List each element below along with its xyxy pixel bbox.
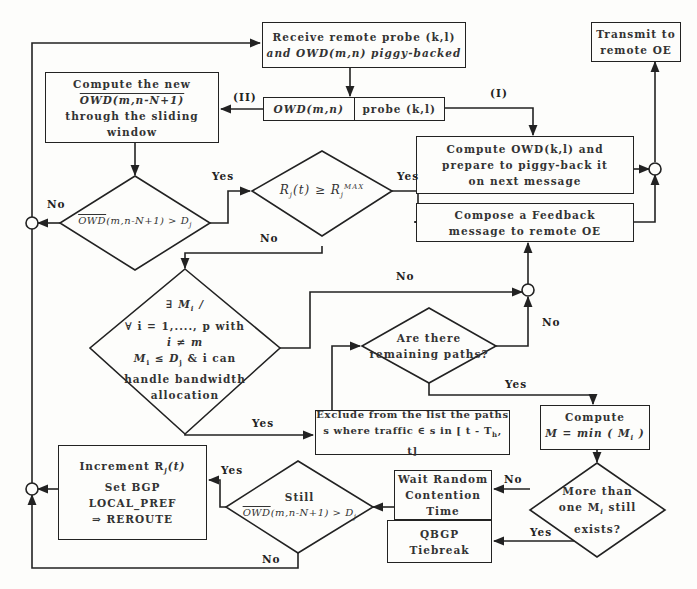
- receive-probe-box: Receive remote probe (k,l) and OWD(m,n) …: [262, 22, 466, 68]
- decision-remaining-paths: Are there remaining paths?: [362, 328, 496, 364]
- compute-new-line3: through the sliding window: [46, 108, 218, 140]
- still-line2: OWD(m,n-N+1) > Dj: [243, 505, 357, 525]
- label-no-more: No: [504, 473, 523, 485]
- compute-min-box: Compute M = min ( Mi ): [540, 405, 650, 450]
- more-line2b: still: [604, 501, 636, 513]
- remaining-line2: remaining paths?: [369, 346, 488, 362]
- label-no-d3: No: [396, 270, 415, 282]
- label-yes-d3: Yes: [252, 417, 274, 429]
- label-yes-d2: Yes: [397, 170, 419, 182]
- exists-line1-text: ∃ M: [166, 298, 191, 310]
- label-branch-II: (II): [233, 91, 257, 103]
- wait-line1: Wait Random: [398, 471, 488, 487]
- exists-line4c: & i can: [183, 352, 236, 364]
- label-yes-d1: Yes: [212, 170, 234, 182]
- owd-gt-d-text: OWD(m,n-N+1) > Dj: [78, 213, 192, 233]
- label-yes-more: Yes: [530, 526, 552, 538]
- exclude-line1: Exclude from the list the paths: [316, 407, 508, 423]
- label-branch-I: (I): [490, 87, 508, 99]
- wait-line3: Time: [426, 503, 460, 519]
- owd-gt-d-mid: (m,n-N+1) > D: [106, 215, 189, 226]
- compute-new-owd-box: Compute the new OWD(m,n-N+1) through the…: [45, 72, 219, 143]
- wait-line2: Contention: [405, 487, 481, 503]
- compute-new-line2: OWD(m,n-N+1): [80, 92, 184, 108]
- r-b-sub: j: [341, 191, 344, 199]
- increment-line2: Set BGP: [105, 479, 161, 495]
- exists-line2: ∀ i = 1,...., p with: [125, 318, 245, 334]
- still-mid: (m,n-N+1) > D: [271, 507, 354, 518]
- compute-owd-kl-box: Compute OWD(k,l) and prepare to piggy-ba…: [416, 136, 634, 194]
- transmit-line2: remote OE: [600, 42, 672, 58]
- split-probe-label: probe (k,l): [355, 101, 445, 117]
- label-no-d1: No: [47, 198, 66, 210]
- r-b-sup: MAX: [344, 183, 364, 191]
- compose-line2: message to remote OE: [449, 223, 601, 239]
- exclude-line2-text: s where traffic ∈ s in [ t - T: [323, 425, 492, 436]
- wait-random-box: Wait Random Contention Time: [394, 470, 492, 520]
- qbgp-line2: Tiebreak: [409, 542, 469, 558]
- exists-line1-end: /: [194, 298, 204, 310]
- more-line2a: one M: [559, 501, 601, 513]
- owd-gt-d-sub: j: [189, 221, 192, 229]
- decision-still-owd: Still OWD(m,n-N+1) > Dj: [226, 488, 373, 526]
- compose-feedback-box: Compose a Feedback message to remote OE: [416, 203, 634, 242]
- decision-exists-mi: ∃ Mi / ∀ i = 1,...., p with i ≠ m Mi ≤ D…: [100, 292, 270, 407]
- increment-line1-text: Increment R: [79, 460, 164, 472]
- decision-r-ge-rmax: Rj(t) ≥ RjMAX: [252, 180, 392, 202]
- compute-new-line1: Compute the new: [73, 76, 191, 92]
- increment-line1: Increment Rj(t): [79, 458, 185, 479]
- owd-gt-d-owd: OWD: [78, 215, 106, 226]
- exists-line5: handle bandwidth: [124, 371, 246, 387]
- compute-m-end: ): [634, 427, 645, 439]
- more-line3: exists?: [574, 521, 621, 537]
- compute-m-line2: M = min ( Mi ): [545, 425, 645, 446]
- receive-line1: Receive remote probe (k,l): [273, 29, 456, 45]
- compose-line1: Compose a Feedback: [455, 207, 596, 223]
- still-owd: OWD: [243, 507, 271, 518]
- exists-line4b: ≤ D: [150, 352, 179, 364]
- exclude-paths-box: Exclude from the list the paths s where …: [315, 410, 510, 455]
- compute-owd-line2: prepare to piggy-back it: [442, 157, 608, 173]
- label-yes-still: Yes: [221, 464, 243, 476]
- transmit-line1: Transmit to: [596, 26, 675, 42]
- label-no-still: No: [262, 553, 281, 565]
- exists-line4a: M: [134, 352, 147, 364]
- r-b: (t) ≥ R: [293, 183, 341, 197]
- label-yes-remaining: Yes: [505, 378, 527, 390]
- compute-owd-line3: on next message: [469, 173, 582, 189]
- receive-line2: and OWD(m,n) piggy-backed: [267, 45, 462, 61]
- exists-line1: ∃ Mi /: [166, 296, 204, 317]
- still-sub: j: [354, 513, 357, 521]
- increment-line4: ⇒ REROUTE: [92, 511, 173, 527]
- compute-m-line2-text: M = min ( M: [545, 427, 630, 439]
- still-line1: Still: [285, 489, 314, 505]
- more-line2: one Mi still: [559, 499, 637, 520]
- exists-line6: allocation: [151, 387, 219, 403]
- more-line1: More than: [562, 483, 632, 499]
- increment-line3: LOCAL_PREF: [89, 495, 177, 511]
- qbgp-line1: QBGP: [420, 526, 459, 542]
- label-no-remaining: No: [542, 316, 561, 328]
- qbgp-tiebreak-box: QBGP Tiebreak: [387, 520, 492, 563]
- compute-m-line1: Compute: [565, 409, 625, 425]
- owd-probe-split-box: OWD(m,n) probe (k,l): [263, 97, 445, 121]
- r-ge-rmax-text: Rj(t) ≥ RjMAX: [280, 179, 365, 203]
- increment-reroute-box: Increment Rj(t) Set BGP LOCAL_PREF ⇒ RER…: [58, 445, 207, 540]
- exists-line3: i ≠ m: [167, 334, 203, 350]
- exists-line4: Mi ≤ Dj & i can: [134, 350, 236, 371]
- decision-owd-gt-d: OWD(m,n-N+1) > Dj: [60, 213, 210, 233]
- compute-owd-line1: Compute OWD(k,l) and: [447, 141, 604, 157]
- increment-end: (t): [168, 460, 186, 472]
- remaining-line1: Are there: [397, 330, 461, 346]
- exclude-line2: s where traffic ∈ s in [ t - Th, t]: [316, 423, 509, 459]
- transmit-box: Transmit to remote OE: [591, 22, 681, 62]
- label-no-d2: No: [260, 232, 279, 244]
- r-a: R: [280, 183, 290, 197]
- split-owd-label: OWD(m,n): [264, 98, 355, 120]
